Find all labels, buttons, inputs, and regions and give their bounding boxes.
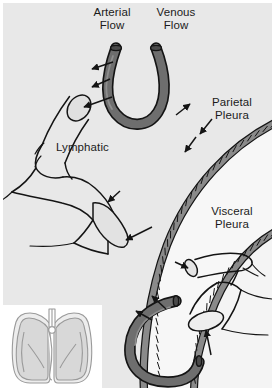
venous-limb-mouth <box>151 45 162 50</box>
arterial-limb-mouth <box>111 45 122 50</box>
pleural-diagram-figure: Arterial Flow Venous Flow Parietal Pleur… <box>0 0 275 391</box>
lung-inset <box>2 305 102 389</box>
capillary-bottom-mouth-2 <box>196 356 201 367</box>
capillary-bottom-mouth-1 <box>173 296 178 307</box>
diagram-canvas <box>0 0 275 391</box>
carina <box>49 327 55 333</box>
